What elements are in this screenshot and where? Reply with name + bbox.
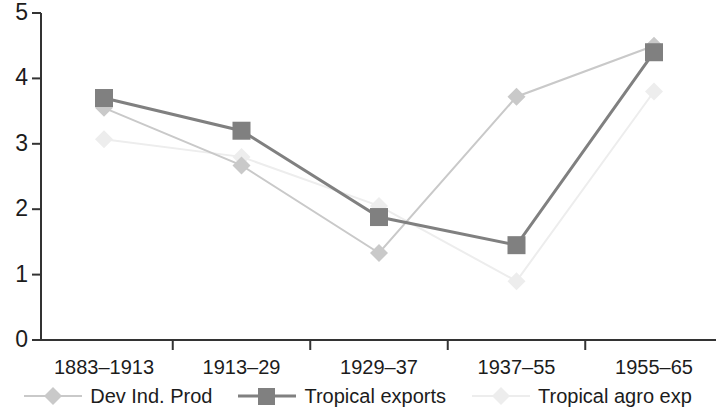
legend-item: Tropical agro exp xyxy=(472,386,692,406)
y-tick-label: 5 xyxy=(2,1,28,24)
x-tick-label: 1913–29 xyxy=(162,357,322,377)
data-point-square xyxy=(95,89,113,107)
data-point-diamond xyxy=(508,272,526,290)
legend-square-marker-icon xyxy=(238,386,296,406)
data-point-diamond xyxy=(645,82,663,100)
plot-area xyxy=(0,0,716,417)
x-tick-label: 1955–65 xyxy=(574,357,716,377)
x-tick-label: 1937–55 xyxy=(437,357,597,377)
data-point-square xyxy=(508,236,526,254)
series-group xyxy=(95,37,663,290)
x-tick-label: 1883–1913 xyxy=(24,357,184,377)
data-point-square xyxy=(233,122,251,140)
legend-item: Tropical exports xyxy=(238,386,446,406)
data-point-diamond xyxy=(95,130,113,148)
y-tick-label: 4 xyxy=(2,66,28,89)
y-tick-label: 0 xyxy=(2,328,28,351)
data-point-square xyxy=(645,43,663,61)
y-tick-label: 2 xyxy=(2,197,28,220)
legend-label: Dev Ind. Prod xyxy=(90,386,212,406)
y-tick-label: 3 xyxy=(2,132,28,155)
line-chart: 012345 1883–19131913–291929–371937–55195… xyxy=(0,0,716,417)
legend-item: Dev Ind. Prod xyxy=(24,386,212,406)
legend-diamond-marker-icon xyxy=(24,386,82,406)
legend-label: Tropical exports xyxy=(304,386,446,406)
legend-diamond-marker-icon xyxy=(472,386,530,406)
chart-legend: Dev Ind. ProdTropical exportsTropical ag… xyxy=(0,381,716,411)
data-point-square xyxy=(370,208,388,226)
y-tick-label: 1 xyxy=(2,263,28,286)
axis-group xyxy=(32,13,716,350)
legend-label: Tropical agro exp xyxy=(538,386,692,406)
x-tick-label: 1929–37 xyxy=(299,357,459,377)
